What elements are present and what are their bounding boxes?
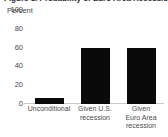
bar xyxy=(81,48,110,104)
y-axis-tick-label: 80 xyxy=(15,25,23,33)
bar-chart: Figure 3. Probability of Euro Area Reces… xyxy=(0,0,168,137)
x-axis-tick-label-line: recession xyxy=(113,122,168,131)
bar xyxy=(127,48,156,104)
y-axis-tick-label: 60 xyxy=(15,44,23,52)
x-axis-tick-label: GivenEuro Arearecession xyxy=(113,105,168,131)
x-axis-tick-label-line: Euro Area xyxy=(113,114,168,123)
chart-title: Figure 3. Probability of Euro Area Reces… xyxy=(4,0,168,3)
bar xyxy=(35,98,64,104)
y-axis-tick-label: 20 xyxy=(15,81,23,89)
x-axis-tick-label-line: Given xyxy=(113,105,168,114)
y-axis-tick-label: 100 xyxy=(10,6,23,14)
plot-area: 100806040200 xyxy=(26,10,164,104)
x-axis-labels: UnconditionalGiven U.S.recessionGivenEur… xyxy=(0,105,168,137)
y-axis-tick-label: 40 xyxy=(15,62,23,70)
